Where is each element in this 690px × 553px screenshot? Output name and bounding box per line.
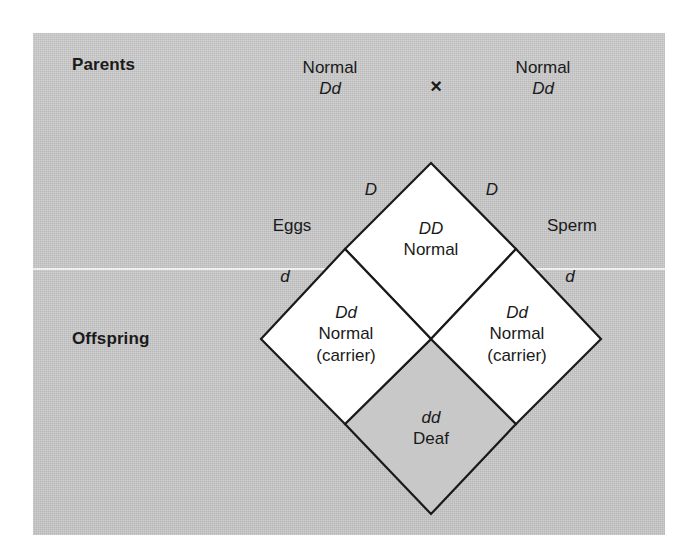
parent-right-phenotype: Normal	[516, 58, 571, 79]
cell-bottom-phenotype: Deaf	[413, 428, 449, 449]
cell-right-note: (carrier)	[487, 345, 547, 366]
parent-right: Normal Dd	[516, 58, 571, 99]
cell-left-note: (carrier)	[316, 345, 376, 366]
parent-left: Normal Dd	[303, 58, 358, 99]
egg-allele-dominant: D	[365, 180, 377, 201]
cell-top-genotype: DD	[404, 218, 459, 239]
cell-right-genotype: Dd	[487, 302, 547, 323]
cell-label-top: DD Normal	[404, 218, 459, 261]
cell-left-phenotype: Normal	[316, 323, 376, 344]
eggs-label: Eggs	[273, 216, 312, 237]
cell-top-phenotype: Normal	[404, 239, 459, 260]
parent-left-genotype: Dd	[303, 79, 358, 100]
sperm-allele-recessive: d	[565, 267, 574, 288]
cross-symbol: ×	[430, 74, 442, 98]
sperm-label: Sperm	[547, 216, 597, 237]
parent-right-genotype: Dd	[516, 79, 571, 100]
sperm-allele-dominant: D	[486, 180, 498, 201]
cell-label-bottom: dd Deaf	[413, 407, 449, 450]
parents-row-label: Parents	[72, 55, 135, 76]
cell-label-right: Dd Normal (carrier)	[487, 302, 547, 366]
egg-allele-recessive: d	[280, 267, 289, 288]
cell-bottom-genotype: dd	[413, 407, 449, 428]
parent-left-phenotype: Normal	[303, 58, 358, 79]
cell-label-left: Dd Normal (carrier)	[316, 302, 376, 366]
offspring-row-label: Offspring	[72, 329, 149, 350]
cell-right-phenotype: Normal	[487, 323, 547, 344]
figure-canvas: Parents Normal Dd × Normal Dd Eggs Sperm…	[0, 0, 690, 553]
cell-left-genotype: Dd	[316, 302, 376, 323]
